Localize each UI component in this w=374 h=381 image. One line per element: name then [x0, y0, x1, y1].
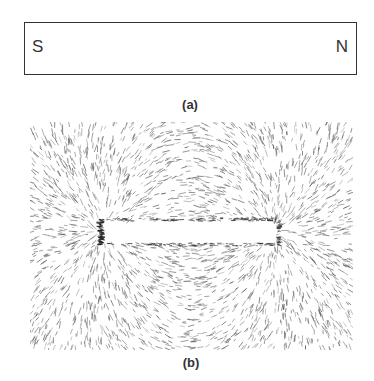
iron-filings-field: [30, 122, 353, 350]
north-pole-label: N: [336, 37, 348, 57]
bar-magnet-diagram: S N: [24, 22, 357, 75]
caption-a: (a): [170, 97, 210, 112]
south-pole-label: S: [32, 37, 43, 57]
caption-b: (b): [171, 355, 211, 370]
